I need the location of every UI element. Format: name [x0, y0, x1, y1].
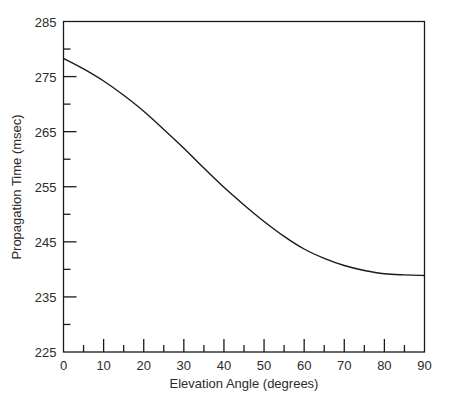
y-axis-title: Propagation Time (msec): [9, 114, 24, 259]
x-axis-tick-label: 90: [417, 358, 431, 373]
x-axis-title: Elevation Angle (degrees): [170, 376, 319, 391]
x-axis-tick-label: 20: [136, 358, 150, 373]
x-axis-tick-label: 0: [60, 358, 67, 373]
x-axis-tick-label: 60: [297, 358, 311, 373]
x-axis-tick-label: 70: [337, 358, 351, 373]
y-axis-tick-label: 245: [35, 235, 57, 250]
chart-figure: 225235245255265275285 010203040506070809…: [0, 0, 452, 406]
y-axis-tick-label: 235: [35, 290, 57, 305]
y-axis-tick-label: 265: [35, 125, 57, 140]
x-axis-tick-label: 40: [217, 358, 231, 373]
propagation-time-line-chart: 225235245255265275285 010203040506070809…: [0, 0, 452, 406]
x-axis-tick-label: 80: [377, 358, 391, 373]
x-axis-tick-label: 50: [257, 358, 271, 373]
y-axis-tick-label: 255: [35, 180, 57, 195]
x-axis-tick-label: 10: [96, 358, 110, 373]
x-axis-tick-label: 30: [177, 358, 191, 373]
y-axis-tick-label: 275: [35, 70, 57, 85]
y-axis-tick-label: 285: [35, 15, 57, 30]
y-axis-tick-label: 225: [35, 345, 57, 360]
